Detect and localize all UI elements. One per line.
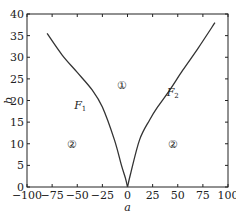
region-label: ②: [168, 138, 178, 151]
y-tick-label: 0: [17, 181, 24, 194]
axis-ticks: −100−75−50−2502550751000510152025303540: [10, 8, 236, 202]
region-label: ②: [67, 138, 77, 151]
x-tick-label: −25: [91, 189, 114, 202]
curve-label-f1: F1: [73, 99, 86, 113]
x-tick-label: 50: [171, 189, 185, 202]
series-f2-line: [128, 23, 215, 187]
y-tick-label: 35: [10, 30, 24, 43]
series-layer: [47, 23, 215, 187]
plot-border: [27, 14, 228, 187]
region-label: ①: [117, 79, 127, 92]
y-tick-label: 25: [10, 73, 24, 86]
y-tick-label: 15: [10, 116, 24, 129]
chart-canvas: −100−75−50−2502550751000510152025303540 …: [0, 0, 236, 215]
curve-label-f2: F2: [166, 86, 179, 100]
y-tick-label: 5: [17, 159, 24, 172]
x-tick-label: −75: [41, 189, 64, 202]
y-tick-label: 10: [10, 138, 24, 151]
plot-frame: [27, 14, 228, 187]
y-tick-label: 40: [10, 8, 24, 21]
x-tick-label: 25: [146, 189, 160, 202]
x-tick-label: −50: [66, 189, 89, 202]
y-axis-label: b: [2, 97, 15, 104]
x-tick-label: 100: [218, 189, 237, 202]
x-tick-label: 75: [196, 189, 210, 202]
series-f1-line: [47, 33, 127, 187]
x-axis-label: a: [124, 201, 131, 214]
annotation-layer: F1F2①②②: [67, 79, 179, 150]
y-tick-label: 30: [10, 51, 24, 64]
